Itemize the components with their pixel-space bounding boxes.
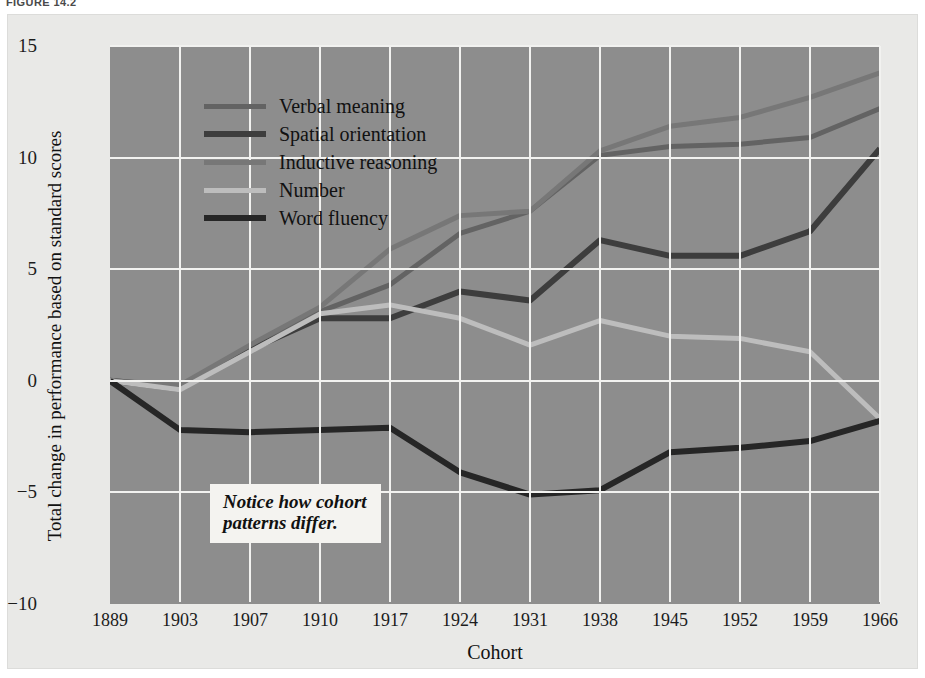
legend-label: Verbal meaning [279, 95, 405, 118]
y-tick-label: −10 [0, 593, 37, 615]
gridline-horizontal [110, 268, 880, 270]
x-tick-label: 1938 [560, 610, 640, 631]
legend-swatch [204, 215, 266, 221]
y-tick-label: 15 [0, 35, 37, 57]
x-tick-label: 1907 [210, 610, 290, 631]
legend-item: Spatial orientation [204, 120, 437, 148]
x-tick-label: 1917 [350, 610, 430, 631]
legend-swatch [204, 160, 266, 165]
gridline-vertical [879, 46, 881, 604]
x-tick-label: 1910 [280, 610, 360, 631]
y-axis-label: Total change in performance based on sta… [44, 76, 66, 596]
legend-item: Word fluency [204, 204, 437, 232]
y-tick-label: 0 [0, 370, 37, 392]
x-tick-label: 1903 [140, 610, 220, 631]
x-tick-label: 1931 [490, 610, 570, 631]
gridline-vertical [529, 46, 531, 604]
y-tick-label: 10 [0, 147, 37, 169]
annotation-callout: Notice how cohort patterns differ. [210, 484, 381, 543]
chart-legend: Verbal meaningSpatial orientationInducti… [204, 92, 437, 232]
figure-card: 151050−5−10 1889190319071910191719241931… [7, 14, 918, 669]
gridline-vertical [809, 46, 811, 604]
x-tick-label: 1966 [840, 610, 920, 631]
legend-swatch [204, 104, 266, 109]
legend-swatch [204, 131, 266, 137]
legend-item: Number [204, 176, 437, 204]
legend-label: Number [279, 179, 345, 202]
y-tick-label: 5 [0, 258, 37, 280]
x-tick-label: 1924 [420, 610, 500, 631]
x-axis-label: Cohort [110, 641, 880, 664]
legend-label: Spatial orientation [279, 123, 426, 146]
gridline-vertical [669, 46, 671, 604]
gridline-vertical [179, 46, 181, 604]
gridline-vertical [599, 46, 601, 604]
x-tick-label: 1945 [630, 610, 710, 631]
gridline-vertical [459, 46, 461, 604]
gridline-horizontal [110, 45, 880, 47]
y-tick-label: −5 [0, 481, 37, 503]
x-axis-line [110, 602, 880, 604]
gridline-vertical [739, 46, 741, 604]
legend-swatch [204, 188, 266, 193]
legend-label: Inductive reasoning [279, 151, 437, 174]
series-line [110, 381, 880, 495]
x-tick-label: 1952 [700, 610, 780, 631]
gridline-horizontal [110, 380, 880, 382]
figure-label: FIGURE 14.2 [6, 0, 76, 8]
x-tick-label: 1959 [770, 610, 850, 631]
legend-label: Word fluency [279, 207, 388, 230]
legend-item: Inductive reasoning [204, 148, 437, 176]
legend-item: Verbal meaning [204, 92, 437, 120]
x-tick-label: 1889 [70, 610, 150, 631]
